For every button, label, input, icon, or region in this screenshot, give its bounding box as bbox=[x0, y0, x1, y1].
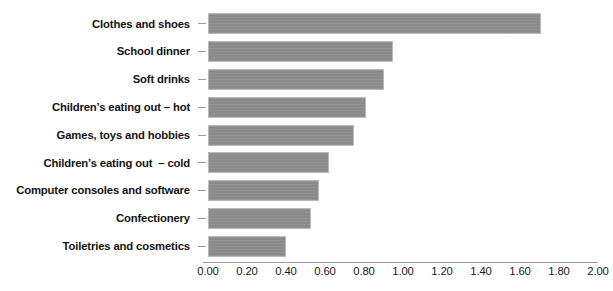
category-tick bbox=[198, 66, 208, 94]
bar bbox=[208, 180, 319, 201]
category-label: School dinner bbox=[117, 45, 190, 57]
category-label-row: Children’s eating out – cold bbox=[0, 149, 194, 177]
value-tick-label: 1.40 bbox=[470, 265, 492, 277]
tick-mark bbox=[198, 190, 206, 191]
category-label-row: Toiletries and cosmetics bbox=[0, 232, 194, 260]
category-tick bbox=[198, 121, 208, 149]
bar-row bbox=[208, 232, 598, 260]
category-label: Computer consoles and software bbox=[16, 184, 190, 196]
tick-mark bbox=[198, 51, 206, 52]
category-tick bbox=[198, 177, 208, 205]
bar-row bbox=[208, 121, 598, 149]
bar-row bbox=[208, 10, 598, 38]
category-label: Children’s eating out – hot bbox=[52, 101, 190, 113]
tick-mark bbox=[198, 79, 206, 80]
category-label: Soft drinks bbox=[133, 73, 190, 85]
bar-chart: Clothes and shoesSchool dinnerSoft drink… bbox=[0, 0, 613, 291]
category-label: Clothes and shoes bbox=[92, 18, 190, 30]
category-tick bbox=[198, 93, 208, 121]
bar-row bbox=[208, 149, 598, 177]
bar-series bbox=[208, 10, 598, 260]
value-tick-label: 0.20 bbox=[236, 265, 258, 277]
category-label-row: Computer consoles and software bbox=[0, 177, 194, 205]
bar bbox=[208, 41, 393, 62]
category-tick bbox=[198, 204, 208, 232]
bar bbox=[208, 97, 366, 118]
tick-mark bbox=[198, 218, 206, 219]
value-tick-label: 0.60 bbox=[314, 265, 336, 277]
bar-row bbox=[208, 93, 598, 121]
category-label-row: Soft drinks bbox=[0, 66, 194, 94]
value-tick-label: 0.40 bbox=[275, 265, 297, 277]
tick-mark bbox=[198, 23, 206, 24]
category-label-row: School dinner bbox=[0, 38, 194, 66]
value-tick-label: 0.00 bbox=[197, 265, 219, 277]
category-label-row: Confectionery bbox=[0, 204, 194, 232]
tick-mark bbox=[198, 162, 206, 163]
value-tick-label: 1.00 bbox=[392, 265, 414, 277]
category-tick bbox=[198, 149, 208, 177]
category-axis: Clothes and shoesSchool dinnerSoft drink… bbox=[0, 10, 194, 260]
bar-row bbox=[208, 66, 598, 94]
tick-mark bbox=[198, 135, 206, 136]
bar bbox=[208, 236, 286, 257]
bar bbox=[208, 208, 311, 229]
value-tick-label: 1.80 bbox=[548, 265, 570, 277]
bar-row bbox=[208, 177, 598, 205]
category-label-row: Children’s eating out – hot bbox=[0, 93, 194, 121]
category-tick bbox=[198, 232, 208, 260]
category-label: Toiletries and cosmetics bbox=[63, 240, 190, 252]
value-tick-label: 0.80 bbox=[353, 265, 375, 277]
value-tick-label: 2.00 bbox=[587, 265, 609, 277]
value-tick-label: 1.20 bbox=[431, 265, 453, 277]
category-label: Games, toys and hobbies bbox=[57, 129, 190, 141]
plot-area bbox=[208, 10, 598, 260]
category-tick bbox=[198, 10, 208, 38]
category-label-row: Games, toys and hobbies bbox=[0, 121, 194, 149]
tick-mark bbox=[198, 107, 206, 108]
category-label: Children’s eating out – cold bbox=[44, 157, 191, 169]
category-tick-marks bbox=[198, 10, 208, 260]
value-axis: 0.000.200.400.600.801.001.201.401.601.80… bbox=[208, 265, 598, 285]
bar-row bbox=[208, 38, 598, 66]
bar bbox=[208, 69, 384, 90]
category-tick bbox=[198, 38, 208, 66]
bar bbox=[208, 152, 329, 173]
bar-row bbox=[208, 204, 598, 232]
value-axis-line bbox=[203, 262, 598, 263]
tick-mark bbox=[198, 246, 206, 247]
category-label-row: Clothes and shoes bbox=[0, 10, 194, 38]
bar bbox=[208, 125, 354, 146]
category-label: Confectionery bbox=[116, 212, 190, 224]
bar bbox=[208, 13, 541, 34]
value-tick-label: 1.60 bbox=[509, 265, 531, 277]
